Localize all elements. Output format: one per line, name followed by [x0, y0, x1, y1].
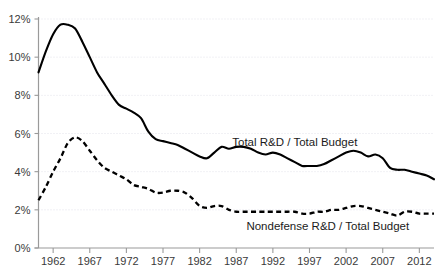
chart-background: [0, 0, 441, 280]
x-tick-label-1987: 1987: [224, 255, 248, 267]
chart-container: 0%2%4%6%8%10%12% 19621967197219771982198…: [0, 0, 441, 280]
series-label-nondefense-rd: Nondefense R&D / Total Budget: [246, 220, 410, 232]
x-tick-label-1992: 1992: [261, 255, 285, 267]
y-tick-label-2: 2%: [15, 204, 31, 216]
y-tick-label-6: 6%: [15, 128, 31, 140]
y-tick-label-10: 10%: [8, 51, 30, 63]
x-tick-label-1972: 1972: [114, 255, 138, 267]
x-tick-label-1977: 1977: [151, 255, 175, 267]
series-label-total-rd: Total R&D / Total Budget: [232, 136, 358, 148]
y-tick-label-12: 12%: [8, 13, 30, 25]
y-tick-label-0: 0%: [15, 242, 31, 254]
x-tick-label-1982: 1982: [187, 255, 211, 267]
x-tick-label-2007: 2007: [370, 255, 394, 267]
x-tick-label-2002: 2002: [334, 255, 358, 267]
x-tick-label-1997: 1997: [297, 255, 321, 267]
x-tick-label-1962: 1962: [41, 255, 65, 267]
y-tick-label-8: 8%: [15, 89, 31, 101]
x-axis-tick-labels: 1962196719721977198219871992199720022007…: [41, 255, 432, 267]
x-tick-label-2012: 2012: [407, 255, 431, 267]
line-chart: 0%2%4%6%8%10%12% 19621967197219771982198…: [0, 0, 441, 280]
x-tick-label-1967: 1967: [78, 255, 102, 267]
y-tick-label-4: 4%: [15, 166, 31, 178]
